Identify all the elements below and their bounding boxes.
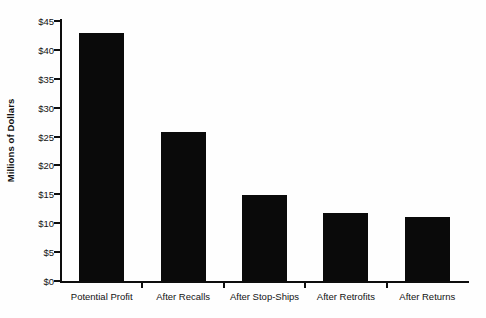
bar	[405, 217, 450, 281]
x-tick-label: After Retrofits	[317, 291, 375, 302]
bar	[242, 195, 287, 281]
x-axis-line	[60, 281, 469, 283]
bar	[79, 33, 124, 281]
x-tick-mark	[141, 281, 143, 288]
x-tick-mark	[386, 281, 388, 288]
bars-layer	[0, 0, 486, 281]
x-tick-label: Potential Profit	[71, 291, 133, 302]
x-tick-mark	[304, 281, 306, 288]
bar-chart: Millions of Dollars $0$5$10$15$20$25$30$…	[0, 0, 486, 318]
x-tick-mark	[223, 281, 225, 288]
x-tick-label: After Recalls	[156, 291, 210, 302]
y-tick-label-wrap: $0	[14, 281, 54, 282]
x-tick-label: After Stop-Ships	[230, 291, 299, 302]
bar	[323, 213, 368, 281]
bar	[161, 132, 206, 281]
x-tick-label: After Returns	[399, 291, 455, 302]
